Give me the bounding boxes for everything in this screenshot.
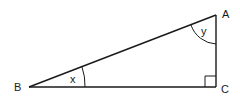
- triangle-diagram: A B C x y: [0, 0, 240, 101]
- angle-arc-x: [82, 67, 85, 87]
- vertex-label-a: A: [222, 8, 230, 20]
- side-ab: [29, 15, 216, 87]
- right-angle-marker: [205, 76, 216, 87]
- angle-label-y: y: [201, 25, 207, 37]
- angle-label-x: x: [70, 73, 76, 85]
- vertex-label-b: B: [14, 81, 21, 93]
- vertex-label-c: C: [221, 83, 229, 95]
